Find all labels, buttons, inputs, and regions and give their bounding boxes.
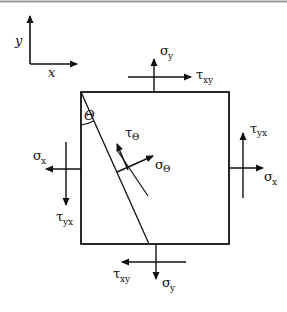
- x-axis-label: x: [48, 65, 56, 80]
- sigma-theta-sub: Θ: [163, 164, 170, 174]
- theta-label: Θ: [84, 108, 95, 123]
- tau-xy-bottom-sub: xy: [120, 274, 131, 284]
- sigma-y-top-sub: y: [167, 51, 174, 61]
- tau-yx-left-sub: yx: [62, 217, 73, 227]
- tau-yx-right-sub: yx: [256, 128, 267, 138]
- inclined-plane-offset: [117, 150, 148, 196]
- stress-element-diagram: y x Θ τ Θ σ Θ σ y τ xy σ x τ yx τ yx σ x…: [0, 0, 287, 312]
- tau-theta-arrow: [117, 144, 128, 170]
- tau-xy-top-sub: xy: [203, 75, 214, 85]
- sigma-x-left-sub: x: [41, 156, 46, 166]
- sigma-x-right-sub: x: [272, 177, 277, 187]
- coordinate-axes: [30, 16, 77, 64]
- sigma-y-bottom-sub: y: [169, 283, 176, 293]
- tau-theta-sub: Θ: [132, 132, 139, 142]
- y-axis-label: y: [14, 33, 23, 48]
